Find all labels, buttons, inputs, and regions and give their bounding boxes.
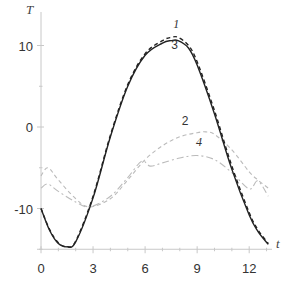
x-axis-title: t <box>276 236 280 251</box>
curve-label-4: 4 <box>196 135 202 149</box>
x-tick-label: 12 <box>242 261 256 276</box>
y-tick-label: 0 <box>26 120 33 135</box>
line-chart: 036912100-10 1324 T t <box>0 0 289 284</box>
x-tick-label: 3 <box>89 261 96 276</box>
curve-label-2: 2 <box>182 114 189 128</box>
x-tick-label: 6 <box>141 261 148 276</box>
x-tick-label: 9 <box>194 261 201 276</box>
x-tick-label: 0 <box>37 261 44 276</box>
curve-3 <box>41 40 268 247</box>
curve-label-1: 1 <box>173 17 179 31</box>
curve-1 <box>41 37 268 247</box>
y-tick-label: -10 <box>14 202 33 217</box>
curve-4 <box>41 155 268 207</box>
y-tick-label: 10 <box>19 39 33 54</box>
curves <box>41 37 268 248</box>
curve-label-3: 3 <box>171 38 178 52</box>
y-axis-title: T <box>26 2 34 17</box>
curve-2 <box>41 132 268 207</box>
